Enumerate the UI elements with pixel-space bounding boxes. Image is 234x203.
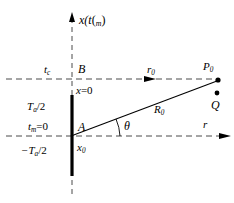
- point-Q-label: Q: [211, 99, 220, 111]
- tc-label: tc: [44, 64, 50, 75]
- R0-label: R0: [154, 104, 164, 115]
- sar-geometry-figure: x(t(m) tc B x=0 Ta/2 tm=0 A x0 −Ta/2 r0 …: [0, 0, 234, 203]
- r-axis-label: r: [203, 119, 207, 130]
- theta-angle-arc: [116, 119, 120, 136]
- x-axis-label: x(t(m): [79, 14, 105, 28]
- x-axis-arrowhead: [69, 12, 75, 22]
- r0-label: r0: [147, 64, 155, 75]
- point-P0-dot: [215, 77, 220, 82]
- theta-label: θ: [124, 120, 130, 132]
- r0-arrowhead: [144, 76, 156, 82]
- Ta-over-2-positive-label: Ta/2: [27, 101, 45, 112]
- tm-equals-zero-label: tm=0: [28, 121, 48, 132]
- point-B-label: B: [78, 63, 85, 75]
- x-equals-zero-label: x=0: [76, 85, 93, 96]
- point-P0-label: P0: [203, 61, 213, 72]
- Ta-over-2-negative-label: −Ta/2: [21, 145, 47, 156]
- point-Q-dot: [215, 91, 220, 96]
- x0-label: x0: [77, 142, 86, 153]
- r-axis-arrowhead: [219, 133, 231, 139]
- point-A-label: A: [78, 121, 85, 133]
